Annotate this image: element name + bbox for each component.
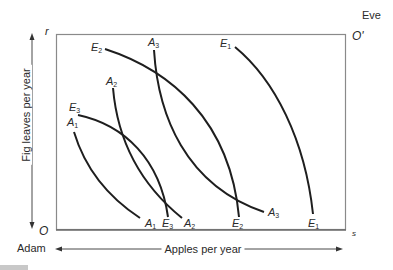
curve-a1 (74, 132, 140, 218)
corner-label-s: s (352, 230, 356, 238)
label-a1-bottom: A1 (145, 218, 156, 230)
curve-a2 (113, 88, 182, 218)
origin-eve-label: O' (352, 30, 364, 42)
edgeworth-box-frame (57, 35, 346, 230)
label-e1-bottom: E1 (308, 218, 319, 230)
x-axis-arrow-left-icon (55, 247, 62, 252)
label-a3-bottom: A3 (268, 207, 279, 219)
y-axis-arrow-down-icon (30, 222, 35, 229)
x-axis-arrow-right-icon (336, 247, 343, 252)
label-e3-bottom: E3 (162, 218, 173, 230)
adam-label: Adam (17, 243, 46, 254)
label-e2-bottom: E2 (232, 218, 243, 230)
page-edge-bar (0, 265, 28, 270)
curve-a3 (154, 50, 264, 212)
origin-adam-label: O (39, 225, 48, 237)
x-axis-label: Apples per year (161, 243, 244, 255)
label-a3-top: A3 (148, 37, 159, 49)
y-axis-label: Fig leaves per year (20, 65, 32, 165)
label-e1-top: E1 (220, 38, 231, 50)
curve-e3 (78, 115, 168, 217)
y-axis-arrow-up-icon (30, 33, 35, 40)
label-a1-top: A1 (67, 117, 78, 129)
curve-e2 (105, 49, 239, 217)
edgeworth-box-diagram (0, 0, 393, 270)
label-a2-top: A2 (106, 76, 117, 88)
label-e2-top: E2 (91, 42, 102, 54)
eve-label: Eve (362, 10, 381, 21)
label-a2-bottom: A2 (184, 218, 195, 230)
label-e3-top: E3 (69, 102, 80, 114)
corner-label-r: r (45, 26, 49, 37)
curve-e1 (235, 47, 313, 214)
